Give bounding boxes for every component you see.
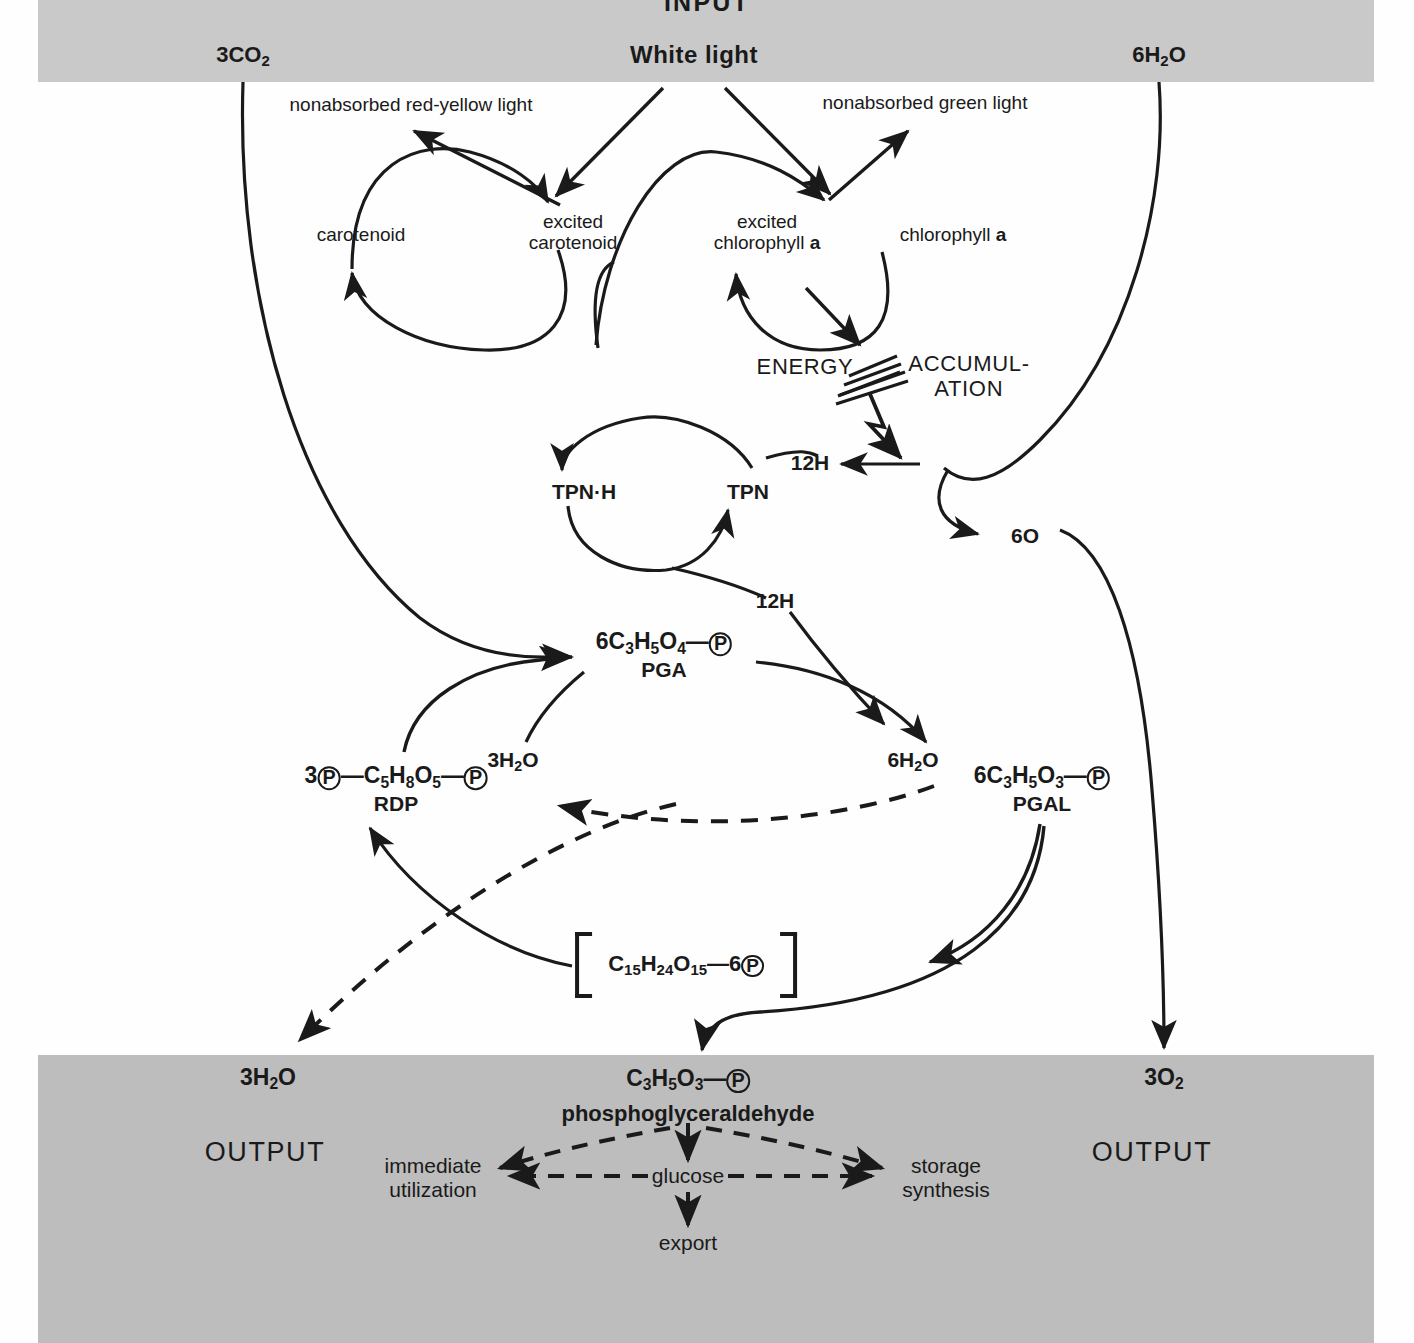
hexose-h-sub: 24 xyxy=(657,961,674,978)
pgal-o-sub: 3 xyxy=(1055,774,1064,791)
co2-subscript: 2 xyxy=(261,52,269,69)
excited-chlorophyll-line2: chlorophyll xyxy=(714,232,810,253)
chlorophyll-a-label: chlorophyll a xyxy=(900,224,1007,245)
six-water-sub: 2 xyxy=(914,758,922,774)
phosphoglyceraldehyde-compound: C3H5O3—P xyxy=(626,1066,750,1094)
water-input-curve xyxy=(939,82,1160,534)
hexose-h: H xyxy=(641,951,657,976)
output-band xyxy=(38,1055,1374,1343)
hexose-c: C xyxy=(608,951,624,976)
storage-synthesis-label: storage synthesis xyxy=(902,1154,990,1201)
excited-carotenoid-label: excited carotenoid xyxy=(529,211,618,254)
co2-input-label: 3CO2 xyxy=(216,43,270,70)
pgald-o-sub: 3 xyxy=(695,1076,704,1093)
three-water-h: H xyxy=(499,748,514,771)
tpnh-label: TPN·H xyxy=(552,480,616,504)
three-water-coefficient: 3 xyxy=(487,748,499,771)
bracket-open-icon xyxy=(575,932,592,998)
phosphate-icon: P xyxy=(709,633,732,656)
immediate-utilization-line1: immediate xyxy=(385,1154,482,1177)
excited-chlorophyll-a-letter: a xyxy=(810,232,821,253)
accumulation-line2: ATION xyxy=(908,377,1003,402)
glucose-label: glucose xyxy=(652,1164,724,1188)
water-recycle-dashed-line xyxy=(560,786,934,821)
rdp-h-sub: 8 xyxy=(406,774,415,791)
water-input-label: 6H2O xyxy=(1132,43,1186,70)
pgald-o: O xyxy=(677,1065,695,1091)
output-band-label-right: OUTPUT xyxy=(1092,1137,1213,1167)
output-water-dashed-line xyxy=(300,804,676,1040)
water-o: O xyxy=(1169,42,1186,67)
pga-compound: 6C3H5O4—P PGA xyxy=(596,629,732,683)
white-light-rays xyxy=(556,88,830,196)
excited-carotenoid-line1: excited xyxy=(543,211,603,232)
pgald-h-sub: 5 xyxy=(668,1076,677,1093)
pga-c-sub: 3 xyxy=(625,640,634,657)
rdp-to-pga-arc xyxy=(404,657,572,752)
output-water-label: 3H2O xyxy=(240,1065,296,1093)
phosphate-icon: P xyxy=(726,1069,749,1092)
nonabsorbed-red-yellow-label: nonabsorbed red-yellow light xyxy=(290,94,533,115)
pga-to-3h2o-branch xyxy=(526,672,584,742)
immediate-utilization-line2: utilization xyxy=(389,1178,477,1201)
pga-o-sub: 4 xyxy=(677,640,686,657)
energy-label: ENERGY xyxy=(757,355,854,380)
output-band-label-left: OUTPUT xyxy=(205,1137,326,1167)
phosphate-icon: P xyxy=(741,955,764,978)
twelve-h-in-label: 12H xyxy=(791,451,830,475)
hexose-p-coefficient: 6 xyxy=(729,951,741,976)
hexose-c-sub: 15 xyxy=(624,961,641,978)
hexose-dash: — xyxy=(707,951,729,976)
carotenoid-label: carotenoid xyxy=(317,224,406,245)
immediate-utilization-label: immediate utilization xyxy=(385,1154,482,1201)
nonabsorbed-green-arrow xyxy=(829,131,908,200)
pga-o: O xyxy=(659,628,677,654)
rdp-dash-right: — xyxy=(441,762,464,788)
co2-coefficient: 3 xyxy=(216,42,228,67)
three-water-sub: 2 xyxy=(514,758,522,774)
pgal-h: H xyxy=(1012,762,1029,788)
pgal-compound: 6C3H5O3—P PGAL xyxy=(974,763,1110,817)
excited-chlorophyll-label: excited chlorophyll a xyxy=(714,211,821,254)
rdp-compound: 3P—C5H8O5—P RDP xyxy=(305,763,488,817)
pgal-c: C xyxy=(987,762,1004,788)
output-oxygen-coefficient: 3 xyxy=(1144,1064,1157,1090)
six-water-coefficient: 6 xyxy=(887,748,899,771)
output-oxygen-label: 3O2 xyxy=(1144,1065,1183,1093)
accumulation-line1: ACCUMUL- xyxy=(908,351,1029,376)
rdp-o: O xyxy=(414,762,432,788)
rdp-dash-left: — xyxy=(341,762,364,788)
chlorophyll-text: chlorophyll xyxy=(900,224,996,245)
carbon-dioxide-input-curve xyxy=(242,82,568,657)
phosphate-icon: P xyxy=(317,767,340,790)
storage-synthesis-line1: storage xyxy=(911,1154,981,1177)
tpn-cycle-loop xyxy=(562,417,818,598)
hexose-o-sub: 15 xyxy=(690,961,707,978)
six-water-label: 6H2O xyxy=(887,748,938,774)
hexose-bracket-compound: C15H24O15—6P xyxy=(575,932,797,998)
pga-c: C xyxy=(609,628,626,654)
three-water-label: 3H2O xyxy=(487,748,538,774)
pgal-c-sub: 3 xyxy=(1003,774,1012,791)
pgal-o: O xyxy=(1037,762,1055,788)
export-label: export xyxy=(659,1231,717,1255)
rdp-coefficient: 3 xyxy=(305,762,318,788)
chlorophyll-a-letter: a xyxy=(996,224,1007,245)
chlorophyll-to-energy-arrow xyxy=(806,288,860,345)
excited-carotenoid-line2: carotenoid xyxy=(529,232,618,253)
three-water-o: O xyxy=(522,748,538,771)
oxygen-intermediate-label: 6O xyxy=(1011,524,1039,548)
pgald-dash: — xyxy=(703,1065,726,1091)
rdp-c: C xyxy=(364,762,381,788)
six-water-o: O xyxy=(922,748,938,771)
water-coefficient: 6 xyxy=(1132,42,1144,67)
nonabsorbed-red-yellow-arrow xyxy=(414,131,560,205)
phosphate-icon: P xyxy=(464,767,487,790)
rdp-h: H xyxy=(389,762,406,788)
white-light-label: White light xyxy=(630,42,758,69)
output-water-h: H xyxy=(253,1064,270,1090)
water-h: H xyxy=(1144,42,1160,67)
excited-chlorophyll-line1: excited xyxy=(737,211,797,232)
hexose-o: O xyxy=(673,951,690,976)
output-water-sub: 2 xyxy=(269,1075,278,1092)
